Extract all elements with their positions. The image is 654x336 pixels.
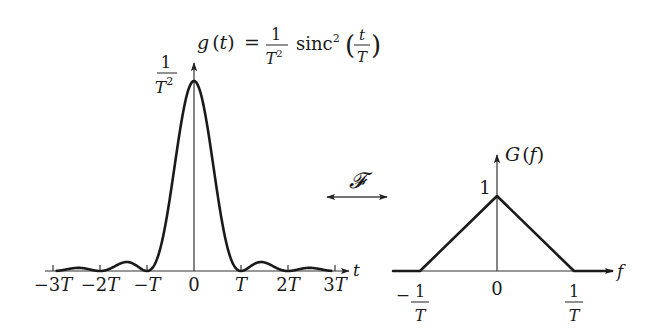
peak-label-den: T2 bbox=[155, 75, 173, 97]
G-axis-label: G(f) bbox=[505, 143, 544, 165]
formula-equals: = bbox=[244, 31, 260, 53]
tick-label: −3T bbox=[34, 274, 75, 295]
formula-frac-num: 1 bbox=[271, 25, 281, 44]
peak-label-right: 1 bbox=[479, 177, 490, 198]
t-axis-label: t bbox=[353, 260, 360, 280]
formula-inner-den: T bbox=[357, 48, 368, 66]
triangle-curve bbox=[393, 196, 612, 271]
svg-text:1: 1 bbox=[569, 282, 579, 301]
fourier-pair-diagram: −3T−2T−T0T2T3T t 1 T2 g(t) = 1 T2 sinc2 … bbox=[0, 0, 654, 336]
right-plot: f G(f) 1 −1T01T bbox=[392, 143, 626, 325]
svg-text:−: − bbox=[396, 285, 410, 305]
formula-lhs: g(t) bbox=[197, 31, 235, 53]
formula-inner-num: t bbox=[359, 26, 366, 44]
tick-label: −T bbox=[133, 274, 162, 295]
fourier-transform-indicator: 𝓕 bbox=[327, 168, 387, 197]
tick-label: 1T bbox=[565, 282, 583, 325]
formula-rparen: ) bbox=[371, 30, 381, 60]
f-axis-ticks: −1T01T bbox=[396, 278, 583, 325]
svg-text:T: T bbox=[415, 306, 427, 325]
tick-label: 2T bbox=[276, 274, 301, 295]
tick-label: −1T bbox=[396, 282, 429, 325]
tick-label: 3T bbox=[323, 274, 348, 295]
svg-text:1: 1 bbox=[415, 282, 425, 301]
formula-sinc: sinc2 bbox=[296, 32, 340, 54]
fourier-symbol: 𝓕 bbox=[349, 168, 373, 193]
tick-label: T bbox=[235, 274, 249, 295]
tick-label: 0 bbox=[188, 274, 199, 295]
peak-label-left: 1 T2 bbox=[155, 52, 177, 97]
svg-text:T: T bbox=[569, 306, 581, 325]
formula-frac-den: T2 bbox=[265, 48, 282, 68]
tick-label: −2T bbox=[81, 274, 122, 295]
formula-lparen: ( bbox=[345, 30, 355, 60]
left-plot: −3T−2T−T0T2T3T t 1 T2 g(t) = 1 T2 sinc2 … bbox=[34, 25, 381, 295]
tick-label: 0 bbox=[491, 278, 502, 299]
peak-label-num: 1 bbox=[161, 52, 172, 72]
g-formula: g(t) = 1 T2 sinc2 ( t T ) bbox=[197, 25, 381, 68]
f-axis-label: f bbox=[615, 261, 626, 281]
